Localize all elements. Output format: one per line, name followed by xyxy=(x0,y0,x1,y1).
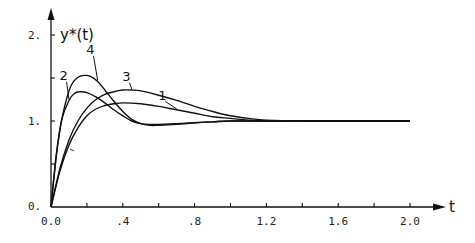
y-axis-arrow-icon xyxy=(48,8,55,20)
x-tick-label: .8 xyxy=(188,215,201,228)
curve-4 xyxy=(51,75,410,207)
curve-leader-4 xyxy=(93,56,97,81)
x-tick-labels: 0.0.4.81.21.62.0 xyxy=(41,215,420,228)
curve-2 xyxy=(51,92,410,207)
curve-leader-3 xyxy=(129,83,131,89)
curve-label-3: 3 xyxy=(122,69,130,84)
x-tick-label: .4 xyxy=(116,215,130,228)
y-tick-label: 0. xyxy=(28,200,41,213)
curves xyxy=(51,75,410,207)
y-tick-labels: 0.1.2. xyxy=(28,29,41,213)
x-tick-label: 1.6 xyxy=(328,215,348,228)
x-tick-label: 0.0 xyxy=(41,215,61,228)
y-tick-label: 1. xyxy=(28,115,41,128)
curve-1 xyxy=(51,103,410,207)
axes xyxy=(48,8,447,211)
x-axis-label: t xyxy=(449,198,455,216)
step-response-chart: 0.0.4.81.21.62.0 0.1.2. y*(t) t 1234 xyxy=(0,0,475,243)
curve-label-1: 1 xyxy=(158,88,166,103)
curve-labels: 1234 xyxy=(59,42,176,109)
x-axis-arrow-icon xyxy=(433,204,446,211)
curve-label-4: 4 xyxy=(86,42,94,57)
x-tick-label: 1.2 xyxy=(256,215,276,228)
curve-label-2: 2 xyxy=(59,68,67,83)
stray-mark xyxy=(70,149,74,151)
y-tick-label: 2. xyxy=(28,29,41,42)
curve-3 xyxy=(51,90,410,207)
x-tick-label: 2.0 xyxy=(400,215,420,228)
